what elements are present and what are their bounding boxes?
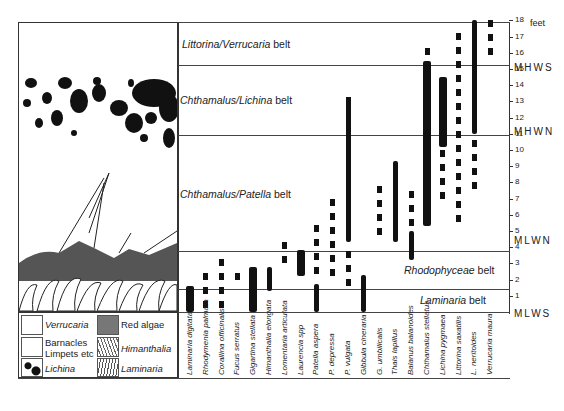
species-dashed-range bbox=[456, 33, 461, 40]
legend-swatch-red-algae bbox=[97, 315, 119, 335]
species-dashed-range bbox=[377, 214, 382, 221]
species-label: Himanthalia elongata bbox=[264, 300, 273, 375]
species-dashed-range bbox=[330, 213, 335, 220]
y-tick-label: 13 bbox=[515, 96, 524, 105]
y-tick-mark bbox=[509, 85, 513, 86]
species-dashed-range bbox=[235, 273, 240, 280]
species-dashed-range bbox=[488, 48, 493, 55]
species-dashed-range bbox=[456, 145, 461, 152]
species-dashed-range bbox=[488, 20, 493, 27]
legend-label-barnacles: Barnacles bbox=[45, 337, 87, 348]
y-tick-label: 14 bbox=[515, 80, 524, 89]
species-dashed-range bbox=[219, 273, 224, 280]
legend: Verrucaria Red algae Barnacles Limpets e… bbox=[18, 312, 178, 378]
legend-swatch-lichina bbox=[21, 358, 43, 377]
species-dashed-range bbox=[409, 191, 414, 198]
belt-divider-laminaria bbox=[178, 289, 510, 290]
species-dashed-range bbox=[377, 228, 382, 235]
species-dashed-range bbox=[346, 279, 351, 286]
species-label: Corallina officinalis bbox=[217, 308, 226, 375]
y-tick-mark bbox=[509, 263, 513, 264]
species-solid-range bbox=[423, 61, 431, 226]
y-tick-label: 1 bbox=[515, 291, 519, 300]
shore-illustration bbox=[18, 22, 178, 312]
species-dashed-range bbox=[314, 225, 319, 232]
y-tick-label: 5 bbox=[515, 226, 519, 235]
species-dashed-range bbox=[219, 287, 224, 294]
species-dashed-range bbox=[440, 164, 445, 171]
y-tick-mark bbox=[509, 280, 513, 281]
y-tick-mark bbox=[509, 101, 513, 102]
species-dashed-range bbox=[456, 159, 461, 166]
y-tick-mark bbox=[509, 118, 513, 119]
species-dashed-range bbox=[346, 251, 351, 258]
baseline-mlws bbox=[178, 312, 510, 313]
y-tick-label: 18 bbox=[515, 15, 524, 24]
y-tick-mark bbox=[509, 150, 513, 151]
y-tick-label: 10 bbox=[515, 145, 524, 154]
species-dashed-range bbox=[330, 227, 335, 234]
legend-swatch-barnacles bbox=[21, 337, 43, 357]
species-solid-range bbox=[409, 231, 414, 260]
axis-unit-label: feet bbox=[530, 18, 545, 28]
legend-label-verrucaria: Verrucaria bbox=[45, 319, 88, 330]
species-dashed-range bbox=[203, 273, 208, 280]
y-tick-mark bbox=[509, 69, 513, 70]
species-dashed-range bbox=[282, 242, 287, 249]
species-solid-range bbox=[249, 267, 257, 312]
y-tick-mark bbox=[509, 231, 513, 232]
species-dashed-range bbox=[377, 186, 382, 193]
species-solid-range bbox=[346, 101, 351, 242]
species-label: Fucus serratus bbox=[232, 322, 241, 375]
rocky-shore-drawing-icon bbox=[19, 23, 177, 311]
species-dashed-range bbox=[409, 219, 414, 226]
species-label: Gibbula cineraria bbox=[359, 315, 368, 375]
species-dashed-range bbox=[314, 239, 319, 246]
species-dashed-range bbox=[456, 103, 461, 110]
legend-swatch-verrucaria bbox=[21, 315, 43, 335]
y-tick-label: 9 bbox=[515, 161, 519, 170]
species-solid-range bbox=[472, 20, 477, 133]
belt-divider-rhodo bbox=[178, 251, 510, 252]
species-dashed-range bbox=[456, 47, 461, 54]
species-label: Laurencia spp bbox=[296, 325, 305, 375]
legend-swatch-laminaria bbox=[97, 358, 119, 377]
species-dashed-range bbox=[472, 140, 477, 147]
tide-label-mlws: MLWS bbox=[514, 308, 551, 319]
tide-label-mhws: MHWS bbox=[514, 62, 554, 73]
belt-label-chthamalus-patella: Chthamalus/Patella belt bbox=[180, 188, 291, 200]
y-tick-mark bbox=[509, 182, 513, 183]
species-label: Patella aspera bbox=[311, 324, 320, 375]
species-dashed-range bbox=[346, 265, 351, 272]
species-dashed-range bbox=[456, 131, 461, 138]
chart-top-border bbox=[178, 22, 510, 23]
species-label: Balanus balanoides bbox=[406, 305, 415, 375]
y-tick-label: 12 bbox=[515, 113, 524, 122]
species-solid-range bbox=[393, 161, 398, 242]
species-label: P. vulgata bbox=[343, 340, 352, 375]
tide-label-mlwn: MLWN bbox=[514, 235, 552, 246]
y-tick-label: 6 bbox=[515, 210, 519, 219]
y-tick-label: 8 bbox=[515, 177, 519, 186]
species-dashed-range bbox=[472, 154, 477, 161]
species-solid-range bbox=[297, 250, 305, 276]
species-dashed-range bbox=[440, 150, 445, 157]
species-dashed-range bbox=[488, 34, 493, 41]
species-dashed-range bbox=[219, 259, 224, 266]
legend-label-red-algae: Red algae bbox=[121, 319, 164, 330]
y-tick-mark bbox=[509, 166, 513, 167]
species-label: Gigartina stellata bbox=[248, 315, 257, 375]
chart-left-border bbox=[178, 22, 179, 378]
species-dashed-range bbox=[440, 192, 445, 199]
species-dashed-range bbox=[203, 287, 208, 294]
species-solid-range bbox=[267, 267, 272, 291]
y-tick-mark bbox=[509, 199, 513, 200]
legend-label-laminaria: Laminaria bbox=[121, 363, 163, 374]
y-tick-mark bbox=[509, 296, 513, 297]
legend-swatch-himanthalia bbox=[97, 337, 119, 357]
species-dashed-range bbox=[314, 253, 319, 260]
species-dashed-range bbox=[456, 187, 461, 194]
y-tick-label: 2 bbox=[515, 275, 519, 284]
species-dashed-range bbox=[456, 201, 461, 208]
belt-label-littorina: Littorina/Verrucaria belt bbox=[182, 38, 290, 50]
